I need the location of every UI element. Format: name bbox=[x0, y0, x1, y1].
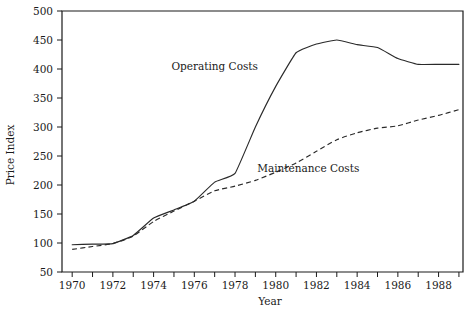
y-tick-label: 50 bbox=[40, 266, 53, 278]
chart-background bbox=[0, 0, 471, 310]
x-tick-label: 1970 bbox=[59, 279, 86, 291]
x-tick-label: 1976 bbox=[181, 279, 208, 291]
y-tick-label: 350 bbox=[33, 92, 53, 104]
y-tick-label: 100 bbox=[33, 237, 53, 249]
line-chart-figure: 50100150200250300350400450500 1970197219… bbox=[0, 0, 471, 310]
y-tick-label: 400 bbox=[33, 63, 53, 75]
chart-canvas: 50100150200250300350400450500 1970197219… bbox=[0, 0, 471, 310]
x-axis-title: Year bbox=[257, 295, 282, 307]
y-tick-label: 200 bbox=[33, 179, 53, 191]
y-tick-label: 150 bbox=[33, 208, 53, 220]
x-tick-label: 1982 bbox=[303, 279, 330, 291]
x-tick-label: 1978 bbox=[222, 279, 249, 291]
x-tick-label: 1980 bbox=[262, 279, 289, 291]
x-tick-label: 1988 bbox=[425, 279, 452, 291]
series-label-operating-costs: Operating Costs bbox=[171, 60, 258, 72]
x-tick-label: 1984 bbox=[344, 279, 371, 291]
y-tick-label: 300 bbox=[33, 121, 53, 133]
series-label-maintenance-costs: Maintenance Costs bbox=[257, 162, 359, 174]
y-tick-label: 450 bbox=[33, 34, 53, 46]
y-tick-label: 250 bbox=[33, 150, 53, 162]
x-tick-label: 1986 bbox=[384, 279, 411, 291]
x-tick-label: 1974 bbox=[140, 279, 167, 291]
y-axis-title: Price Index bbox=[4, 125, 16, 186]
x-tick-label: 1972 bbox=[100, 279, 127, 291]
y-tick-label: 500 bbox=[33, 5, 53, 17]
